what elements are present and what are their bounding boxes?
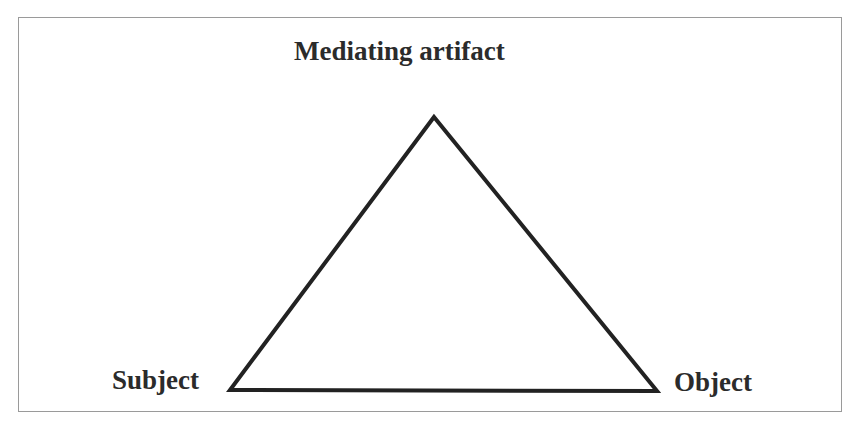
object-label: Object [674,369,752,396]
mediation-triangle [230,117,657,391]
mediating-artifact-label: Mediating artifact [294,38,505,65]
subject-label: Subject [112,367,199,394]
